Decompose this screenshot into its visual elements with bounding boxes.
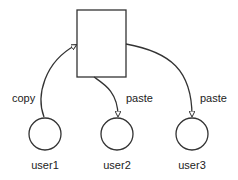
- edge-paste-user2: [94, 77, 118, 116]
- diagram-canvas: copy paste paste user1 user2 user3: [0, 0, 238, 180]
- user1-node: [29, 118, 61, 150]
- user2-label: user2: [103, 159, 131, 171]
- edge-label-copy: copy: [12, 92, 36, 104]
- clipboard-node: [77, 10, 126, 77]
- user2-node: [101, 118, 133, 150]
- user3-label: user3: [178, 159, 206, 171]
- edge-label-paste-user2: paste: [126, 92, 153, 104]
- edge-copy: [41, 45, 76, 117]
- user1-label: user1: [31, 159, 59, 171]
- edge-label-paste-user3: paste: [200, 92, 227, 104]
- user3-node: [176, 118, 208, 150]
- edge-paste-user3: [126, 44, 192, 116]
